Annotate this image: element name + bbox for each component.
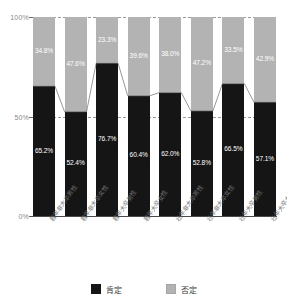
- value-label-negative: 42.9%: [255, 56, 275, 64]
- value-label-positive: 65.2%: [34, 147, 54, 155]
- value-label-negative: 34.8%: [34, 48, 54, 56]
- value-label-positive: 66.5%: [223, 146, 243, 154]
- y-axis-label-0: 0%: [18, 213, 29, 220]
- value-label-positive: 60.4%: [129, 152, 149, 160]
- value-label-negative: 47.2%: [192, 60, 212, 68]
- bar-8: 42.9%57.1%: [254, 17, 276, 216]
- gray-square-swatch: [166, 284, 176, 294]
- value-label-negative: 33.5%: [223, 46, 243, 54]
- value-label-negative: 47.6%: [65, 60, 85, 68]
- bar-1: 34.8%65.2%: [33, 17, 55, 216]
- chart-legend: 肯定 否定: [0, 281, 287, 297]
- legend-label-positive: 肯定: [106, 284, 122, 295]
- y-axis-label-100: 100%: [10, 14, 29, 21]
- bar-4: 39.6%60.4%: [128, 17, 150, 216]
- value-label-negative: 23.3%: [97, 36, 117, 44]
- black-square-swatch: [91, 284, 101, 294]
- legend-item-positive[interactable]: 肯定: [91, 284, 122, 295]
- value-label-negative: 38.0%: [160, 51, 180, 59]
- legend-label-negative: 否定: [181, 284, 197, 295]
- legend-item-negative[interactable]: 否定: [166, 284, 197, 295]
- value-label-positive: 52.4%: [65, 160, 85, 168]
- value-label-positive: 62.0%: [160, 150, 180, 158]
- value-label-positive: 76.7%: [97, 136, 117, 144]
- y-axis-label-50: 50%: [14, 113, 29, 120]
- value-label-positive: 52.8%: [192, 159, 212, 167]
- x-axis-category-labels: 若年非大卒男性若年非大卒女性若年大卒男性若年大卒女性壮年非大卒男性壮年非大卒女性…: [33, 218, 276, 276]
- bar-5: 38.0%62.0%: [159, 17, 181, 216]
- value-label-negative: 39.6%: [129, 52, 149, 60]
- stacked-bar-chart: 100% 50% 0% 34.8%65.2%47.6%52.4%23.3%76.…: [0, 0, 287, 303]
- value-label-positive: 57.1%: [255, 155, 275, 163]
